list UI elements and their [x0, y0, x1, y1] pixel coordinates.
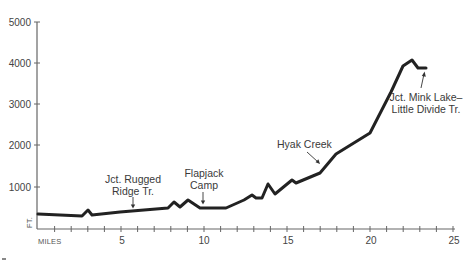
x-unit-label: MILES — [38, 237, 62, 246]
y-unit-label: FT. — [25, 217, 34, 228]
x-tick-labels: MILES 5 10 15 20 25 — [38, 235, 460, 246]
x-label-10: 10 — [198, 235, 210, 246]
arrow-diagonal-icon — [307, 152, 318, 162]
elevation-profile-line — [38, 60, 426, 216]
corner-mark — [2, 258, 6, 260]
annotation-mink-line2: Little Divide Tr. — [392, 103, 461, 115]
y-label-4000: 4000 — [9, 58, 32, 69]
annotation-flapjack-camp: Flapjack Camp — [184, 167, 224, 205]
arrow-head-icon — [131, 205, 135, 209]
annotation-flapjack-line1: Flapjack — [184, 167, 224, 179]
x-label-5: 5 — [119, 235, 125, 246]
annotation-rugged-line2: Ridge Tr. — [112, 185, 154, 197]
y-label-5000: 5000 — [9, 17, 32, 28]
annotation-hyak: Hyak Creek — [277, 138, 333, 150]
annotation-mink-lake: Jct. Mink Lake– Little Divide Tr. — [390, 72, 463, 116]
annotation-mink-line1: Jct. Mink Lake– — [390, 91, 463, 103]
y-label-1000: 1000 — [9, 182, 32, 193]
x-label-25: 25 — [448, 235, 460, 246]
y-label-2000: 2000 — [9, 140, 32, 151]
y-tick-labels: 5000 4000 3000 2000 1000 — [9, 17, 32, 193]
annotation-rugged-line1: Jct. Rugged — [105, 173, 161, 185]
annotation-flapjack-line2: Camp — [190, 179, 218, 191]
arrow-head-icon — [201, 201, 205, 205]
arrow-head-icon — [422, 72, 426, 77]
annotation-hyak-creek: Hyak Creek — [277, 138, 333, 164]
elevation-profile-chart: 5000 4000 3000 2000 1000 FT. MILE — [0, 0, 471, 262]
x-label-20: 20 — [365, 235, 377, 246]
annotation-rugged-ridge: Jct. Rugged Ridge Tr. — [105, 173, 161, 209]
y-label-3000: 3000 — [9, 99, 32, 110]
x-label-15: 15 — [282, 235, 294, 246]
